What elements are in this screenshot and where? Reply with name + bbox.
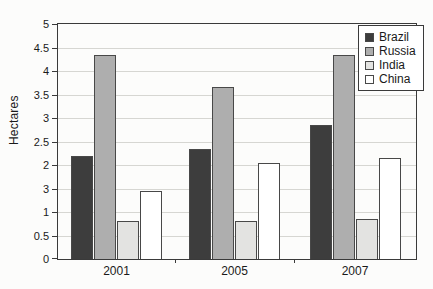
y-axis-title: Hectares [7, 121, 21, 145]
bar-brazil-2007 [310, 125, 332, 259]
y-tick-label: 2.5 [34, 136, 49, 148]
x-category-label: 2005 [221, 264, 248, 278]
legend-swatch-russia [365, 47, 374, 56]
legend-label: India [379, 58, 405, 72]
legend-entry-brazil: Brazil [365, 30, 416, 44]
bar-russia-2007 [333, 55, 355, 259]
y-tick-label: 3.5 [34, 89, 49, 101]
bar-chart-figure: Hectares 54.543.532.52310.50200120052007… [0, 0, 433, 289]
legend-label: Russia [379, 44, 416, 58]
y-tick-label: 0.5 [34, 230, 49, 242]
y-tick-label: 2 [43, 159, 49, 171]
legend-entry-china: China [365, 72, 416, 86]
legend: BrazilRussiaIndiaChina [358, 25, 424, 91]
x-tick-mark [175, 259, 176, 263]
legend-swatch-india [365, 61, 374, 70]
legend-swatch-china [365, 75, 374, 84]
y-tick-label: 3 [43, 183, 49, 195]
x-tick-mark [294, 259, 295, 263]
bar-russia-2005 [212, 87, 234, 259]
bar-russia-2001 [94, 55, 116, 259]
y-tick-mark [52, 258, 57, 259]
y-tick-mark [52, 48, 57, 49]
bar-india-2001 [117, 221, 139, 259]
legend-label: Brazil [379, 30, 409, 44]
y-tick-label: 4.5 [34, 42, 49, 54]
bar-brazil-2005 [189, 149, 211, 259]
bar-china-2005 [258, 163, 280, 259]
x-category-label: 2007 [342, 264, 369, 278]
y-tick-label: 5 [43, 18, 49, 30]
bar-india-2007 [356, 219, 378, 259]
y-tick-mark [52, 71, 57, 72]
y-tick-label: 3 [43, 112, 49, 124]
bar-brazil-2001 [71, 156, 93, 259]
y-tick-label: 1 [43, 206, 49, 218]
bar-china-2001 [140, 191, 162, 259]
bar-china-2007 [379, 158, 401, 259]
y-tick-mark [52, 165, 57, 166]
y-tick-mark [52, 24, 57, 25]
x-category-label: 2001 [103, 264, 130, 278]
y-tick-label: 4 [43, 65, 49, 77]
y-tick-mark [52, 142, 57, 143]
legend-swatch-brazil [365, 33, 374, 42]
legend-entry-india: India [365, 58, 416, 72]
y-tick-mark [52, 118, 57, 119]
legend-entry-russia: Russia [365, 44, 416, 58]
legend-label: China [379, 72, 410, 86]
y-tick-mark [52, 212, 57, 213]
y-tick-mark [52, 95, 57, 96]
y-tick-mark [52, 189, 57, 190]
y-tick-mark [52, 236, 57, 237]
bar-india-2005 [235, 221, 257, 259]
y-tick-label: 0 [43, 253, 49, 265]
